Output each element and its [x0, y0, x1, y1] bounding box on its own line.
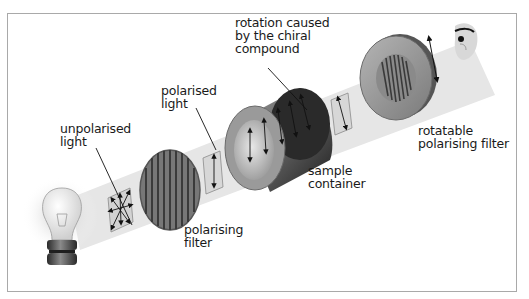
label-polarised-light: polarised light	[161, 84, 217, 110]
polarised-light-panel	[203, 151, 223, 194]
label-sample-container: sample container	[308, 164, 365, 190]
light-bulb-icon	[43, 188, 82, 265]
label-rotatable-polarising-filter: rotatable polarising filter	[418, 124, 509, 150]
rotated-light-panel	[331, 93, 352, 135]
label-unpolarised-light: unpolarised light	[60, 122, 131, 148]
polarising-filter-icon	[140, 150, 200, 230]
label-polarising-filter: polarising filter	[184, 223, 243, 249]
label-rotation: rotation caused by the chiral compound	[235, 16, 330, 55]
polarised-leader-line	[196, 108, 216, 150]
